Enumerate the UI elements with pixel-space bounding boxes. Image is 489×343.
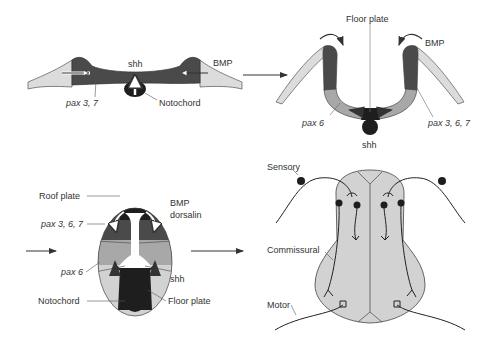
panel-neural-tube: Roof plate BMP dorsalin pax 3, 6, 7 pax …: [38, 191, 211, 320]
label-sensory: Sensory: [267, 162, 301, 172]
label-pax367: pax 3, 6, 7: [40, 219, 84, 229]
neural-groove-dark-right: [403, 46, 418, 90]
neural-tube-diagram: shh BMP pax 3, 7 Notochord Floor plate B…: [0, 0, 489, 343]
bmp-curved-arrow-left: [320, 34, 343, 45]
label-roof-plate: Roof plate: [39, 191, 80, 201]
panel-neural-plate: shh BMP pax 3, 7 Notochord: [28, 57, 242, 108]
neural-groove-dark-left: [323, 46, 337, 90]
label-shh: shh: [362, 140, 377, 150]
panel-neural-groove: Floor plate BMP pax 6 pax 3, 6, 7 shh: [276, 14, 471, 150]
label-motor: Motor: [267, 300, 290, 310]
label-floor-plate: Floor plate: [168, 296, 211, 306]
label-bmp: BMP: [213, 58, 233, 68]
bmp-curved-arrow-right: [399, 34, 422, 45]
commissural-neuron: [336, 200, 343, 207]
label-bmp: BMP: [425, 38, 445, 48]
label-bmp: BMP: [170, 198, 190, 208]
notochord: [125, 292, 145, 312]
floor-plate: [361, 108, 380, 120]
label-pax367: pax 3, 6, 7: [427, 118, 471, 128]
label-shh: shh: [170, 274, 185, 284]
label-pax37: pax 3, 7: [65, 98, 99, 108]
label-pax6: pax 6: [60, 267, 83, 277]
notochord: [362, 119, 378, 135]
label-pax6: pax 6: [301, 118, 324, 128]
label-notochord: Notochord: [38, 296, 80, 306]
label-notochord: Notochord: [159, 98, 201, 108]
panel-spinal-cord: Sensory Commissural Motor: [267, 162, 465, 330]
label-dorsalin: dorsalin: [170, 210, 202, 220]
label-shh: shh: [128, 59, 143, 69]
label-commissural: Commissural: [267, 245, 320, 255]
label-floor-plate: Floor plate: [346, 14, 389, 24]
